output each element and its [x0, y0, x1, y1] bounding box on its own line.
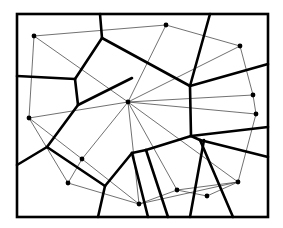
site-point — [254, 112, 259, 117]
voronoi-diagram — [0, 0, 283, 228]
voronoi-edge — [190, 86, 191, 136]
site-point — [80, 157, 85, 162]
site-point — [27, 116, 32, 121]
site-point — [66, 181, 71, 186]
site-point — [126, 100, 131, 105]
site-point — [236, 180, 241, 185]
site-point — [175, 188, 180, 193]
site-point — [205, 194, 210, 199]
site-point — [164, 23, 169, 28]
site-point — [137, 202, 142, 207]
site-point — [251, 93, 256, 98]
site-point — [32, 34, 37, 39]
site-point — [238, 44, 243, 49]
